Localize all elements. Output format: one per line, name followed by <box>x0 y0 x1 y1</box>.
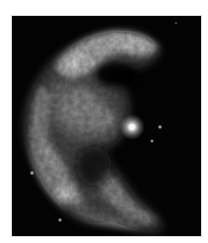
field-star <box>150 139 154 143</box>
nebula-upper-hollow <box>96 63 136 85</box>
field-star <box>30 171 35 176</box>
field-star <box>158 125 163 130</box>
field-star <box>58 218 62 222</box>
point-source <box>119 114 145 140</box>
point-source-core <box>126 121 139 134</box>
astronomical-image <box>12 16 201 236</box>
field-star <box>175 22 178 25</box>
nebula-canvas <box>12 16 201 236</box>
nebula-lower-hollow <box>76 146 112 186</box>
